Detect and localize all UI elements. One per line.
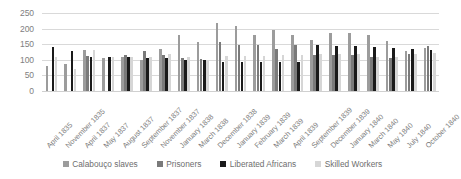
bar [414,54,417,91]
bar-group [307,13,326,91]
legend-label: Calabouço slaves [72,159,138,169]
bar [112,57,115,91]
bar [64,64,67,91]
bar-group [269,13,288,91]
bar-group [137,13,156,91]
bar [301,55,304,91]
bar-group [401,13,420,91]
bars-layer [42,13,439,91]
legend-label: Skilled Workers [325,159,382,169]
bar-group [193,13,212,91]
bar [55,57,58,91]
bar [338,54,341,91]
legend-swatch-icon [315,161,321,167]
bar [102,58,105,91]
bar-group [118,13,137,91]
legend-item[interactable]: Skilled Workers [315,159,382,169]
bar [433,53,436,91]
bar [168,54,171,91]
bar [46,66,49,91]
legend-swatch-icon [220,161,226,167]
plot-area [42,13,439,91]
y-axis-tick: 150 [20,39,34,49]
bar [357,54,360,91]
legend-label: Liberated Africans [230,159,296,169]
bar-group [80,13,99,91]
y-axis: 050100150200250 [0,13,38,91]
legend-item[interactable]: Prisoners [157,159,202,169]
bar [244,56,247,91]
bar [74,69,77,91]
bar-group [99,13,118,91]
y-axis-tick: 0 [29,86,34,96]
bar-group [382,13,401,91]
bar-group [174,13,193,91]
y-axis-tick: 200 [20,24,34,34]
bar-group [420,13,439,91]
bar-group [250,13,269,91]
bar-group [155,13,174,91]
bar [376,57,379,91]
bar-group [212,13,231,91]
bar-group [61,13,80,91]
bar [225,56,228,91]
legend-label: Prisoners [166,159,201,169]
bar [130,57,133,91]
bar-group [363,13,382,91]
legend-swatch-icon [63,161,69,167]
bar [282,55,285,91]
y-axis-tick: 50 [25,70,34,80]
x-axis: April 1835November 1835April 1837May 183… [42,92,439,150]
bar-group [288,13,307,91]
bar-group [231,13,250,91]
legend-swatch-icon [157,161,163,167]
bar-group [42,13,61,91]
bar [319,54,322,91]
chart-legend: Calabouço slavesPrisonersLiberated Afric… [0,156,445,172]
legend-item[interactable]: Calabouço slaves [63,159,138,169]
bar [206,60,209,92]
bar-group [326,13,345,91]
bar [93,50,96,91]
bar [263,56,266,91]
y-axis-tick: 250 [20,8,34,18]
bar [149,57,152,91]
legend-item[interactable]: Liberated Africans [220,159,296,169]
bar [395,57,398,91]
bar [187,57,190,91]
bar-group [345,13,364,91]
y-axis-tick: 100 [20,55,34,65]
